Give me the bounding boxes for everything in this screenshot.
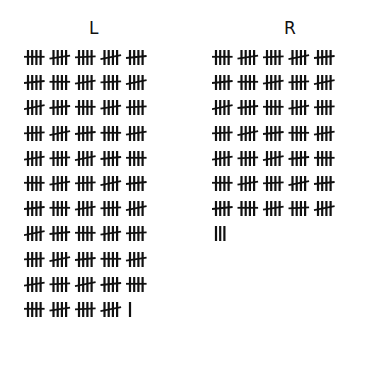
tally-group: [263, 75, 284, 90]
tally-group: [24, 50, 45, 65]
tally-group: [75, 226, 96, 241]
tally-group: [289, 126, 310, 141]
tally-row-marks: [24, 71, 164, 95]
tally-group: [289, 75, 310, 90]
tally-cross-stroke: [289, 82, 310, 83]
tally-row: [24, 71, 164, 96]
tally-cross-stroke: [263, 56, 284, 57]
tally-group: [238, 75, 259, 90]
tally-group: [263, 201, 284, 216]
tally-row: [212, 222, 352, 247]
tally-group: [101, 252, 122, 267]
tally-group: [50, 302, 71, 317]
tally-column-left: [24, 46, 164, 323]
tally-cross-stroke: [50, 283, 71, 284]
tally-row: [212, 96, 352, 121]
tally-row-marks: [24, 96, 164, 120]
tally-row-marks: [212, 197, 352, 221]
tally-group: [101, 302, 122, 317]
tally-row: [24, 172, 164, 197]
tally-group: [212, 151, 233, 166]
tally-group: [75, 201, 96, 216]
tally-group: [75, 176, 96, 191]
tally-group: [238, 50, 259, 65]
tally-group: [101, 201, 122, 216]
tally-row: [24, 273, 164, 298]
tally-row: [212, 46, 352, 71]
tally-group: [212, 176, 233, 191]
tally-group: [75, 100, 96, 115]
tally-row-marks: [212, 147, 352, 171]
tally-group: [50, 151, 71, 166]
tally-group: [126, 201, 147, 216]
tally-group: [126, 226, 147, 241]
column-header-left: L: [89, 18, 98, 38]
tally-group: [263, 50, 284, 65]
tally-group: [24, 226, 45, 241]
tally-group: [289, 151, 310, 166]
tally-group: [126, 126, 147, 141]
tally-group: [238, 201, 259, 216]
tally-group: [50, 50, 71, 65]
tally-row: [24, 122, 164, 147]
tally-group: [50, 226, 71, 241]
tally-group: [50, 252, 71, 267]
tally-row: [24, 46, 164, 71]
tally-group: [314, 176, 335, 191]
tally-row-marks: [24, 222, 164, 246]
tally-row-marks: [212, 222, 352, 246]
tally-group: [50, 277, 71, 292]
tally-group: [126, 151, 147, 166]
tally-cross-stroke: [24, 258, 45, 259]
tally-cross-stroke: [50, 157, 71, 158]
tally-group: [126, 100, 147, 115]
tally-row: [24, 96, 164, 121]
tally-group: [24, 201, 45, 216]
tally-group: [212, 201, 233, 216]
tally-group: [314, 50, 335, 65]
tally-group: [289, 201, 310, 216]
tally-group: [216, 226, 224, 241]
tally-row-marks: [212, 71, 352, 95]
tally-group: [101, 151, 122, 166]
tally-cross-stroke: [314, 107, 335, 108]
tally-row: [212, 147, 352, 172]
tally-group: [24, 277, 45, 292]
tally-group: [126, 252, 147, 267]
tally-cross-stroke: [289, 208, 310, 209]
tally-group: [101, 100, 122, 115]
tally-row-marks: [24, 172, 164, 196]
tally-row-marks: [24, 248, 164, 272]
tally-row: [24, 147, 164, 172]
tally-row-marks: [24, 273, 164, 297]
tally-group: [24, 302, 45, 317]
tally-column-right: [212, 46, 352, 248]
tally-group: [24, 126, 45, 141]
tally-group: [50, 100, 71, 115]
tally-group: [50, 201, 71, 216]
tally-cross-stroke: [263, 182, 284, 183]
tally-row: [24, 197, 164, 222]
tally-row-marks: [24, 197, 164, 221]
tally-group: [101, 75, 122, 90]
tally-group: [238, 100, 259, 115]
tally-group: [238, 126, 259, 141]
tally-group: [24, 75, 45, 90]
tally-group: [101, 176, 122, 191]
tally-row-marks: [212, 172, 352, 196]
tally-group: [314, 126, 335, 141]
tally-group: [75, 277, 96, 292]
tally-group: [50, 75, 71, 90]
tally-group: [289, 100, 310, 115]
tally-row-marks: [212, 122, 352, 146]
tally-row: [212, 122, 352, 147]
tally-group: [238, 151, 259, 166]
tally-group: [212, 126, 233, 141]
tally-group: [50, 126, 71, 141]
tally-group: [263, 151, 284, 166]
tally-cross-stroke: [212, 132, 233, 133]
tally-group: [126, 176, 147, 191]
tally-row: [212, 172, 352, 197]
tally-row-marks: [212, 96, 352, 120]
tally-group: [75, 50, 96, 65]
